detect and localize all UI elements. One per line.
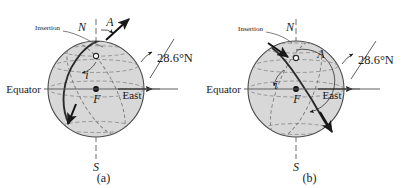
north-pole-label: N — [285, 20, 295, 34]
panel-b-caption: (b) — [206, 171, 413, 186]
panel-b: N S A i F Equator East Insertion 28.6°N … — [206, 0, 413, 188]
panel-b-drawing: N S A i F Equator East Insertion 28.6°N — [206, 0, 413, 188]
inclination-label: i — [274, 78, 277, 92]
equator-label: Equator — [6, 83, 41, 95]
descending-node-marker — [293, 55, 298, 60]
azimuth-label: A — [316, 47, 325, 61]
panel-a-caption: (a) — [0, 171, 207, 186]
focus-label: F — [92, 92, 101, 106]
panel-a-drawing: N S A i F Equator East Insertion 28.6°N — [0, 0, 207, 188]
north-pole-label: N — [77, 20, 87, 34]
inclination-label: i — [85, 68, 88, 82]
latitude-angle-arc — [342, 54, 353, 64]
focus-label: F — [292, 92, 301, 106]
east-label: East — [123, 89, 142, 101]
latitude-label: 28.6°N — [157, 51, 193, 65]
east-label: East — [323, 89, 342, 101]
latitude-label: 28.6°N — [358, 53, 394, 67]
panel-a: N S A i F Equator East Insertion 28.6°N … — [0, 0, 207, 188]
insertion-label: Insertion — [238, 25, 263, 33]
equator-label: Equator — [206, 83, 241, 95]
ascending-node-marker — [93, 53, 98, 58]
latitude-angle-arc — [141, 52, 152, 62]
azimuth-arc — [101, 30, 113, 33]
insertion-label: Insertion — [35, 24, 60, 32]
azimuth-label: A — [105, 15, 114, 29]
figure-container: N S A i F Equator East Insertion 28.6°N … — [0, 0, 413, 188]
